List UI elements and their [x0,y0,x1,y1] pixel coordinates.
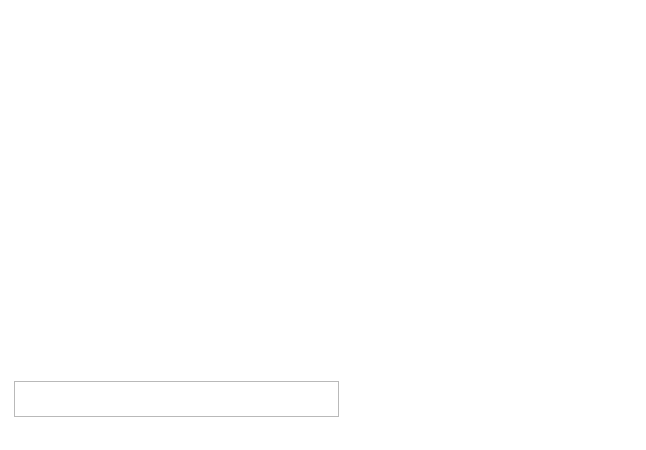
legend-box [14,381,339,417]
figure-container [0,0,646,450]
